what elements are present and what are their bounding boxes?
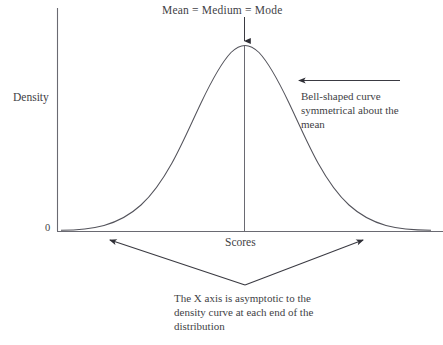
origin-tick-label: 0 xyxy=(45,222,50,234)
asymptote-annotation-line-2: density curve at each end of the xyxy=(174,305,374,319)
asymptote-annotation-line-1: The X axis is asymptotic to the xyxy=(174,291,374,305)
density-curve-figure: Mean = Medium = Mode Density Scores 0 Be… xyxy=(0,0,443,345)
tail-arrow-right xyxy=(245,240,363,285)
bell-curve-annotation-line-2: symmetrical about the xyxy=(301,103,429,117)
asymptote-annotation: The X axis is asymptotic to the density … xyxy=(174,291,374,333)
asymptote-annotation-line-3: distribution xyxy=(174,319,374,333)
bell-curve-annotation-line-1: Bell-shaped curve xyxy=(301,89,429,103)
density-curve xyxy=(61,45,431,230)
y-axis-label: Density xyxy=(13,91,49,104)
bell-curve-annotation-line-3: mean xyxy=(301,117,429,131)
bell-curve-annotation: Bell-shaped curve symmetrical about the … xyxy=(301,89,429,131)
x-axis-label: Scores xyxy=(225,236,256,249)
chart-title: Mean = Medium = Mode xyxy=(162,4,282,17)
